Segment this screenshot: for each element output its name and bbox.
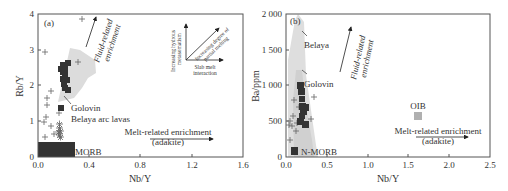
panel-b-fluid-arrow [340,27,351,72]
panel-a-ylabel: Rb/Y [14,75,25,97]
panel-a-belaya-label: Belaya arc lavas [71,114,130,124]
panel-b-xtick: 2.0 [443,160,455,170]
inset-x-line2: interaction [193,70,217,76]
panel-b-oib-label: OIB [410,101,426,111]
panel-b-nmorb-marker [291,147,298,155]
panel-a-ytick: 3 [30,45,35,55]
panel-a-ytick: 4 [30,9,35,19]
panel-a-morb-box [38,142,75,157]
panel-a-golovin-label: Golovin [71,103,101,113]
panel-b-golovin-label: Golovin [304,79,334,89]
panel-a-xtick: 0.4 [83,160,95,170]
panel-a-ytick: 2 [30,80,35,90]
panel-b-xlabel: Nb/Y [377,173,399,184]
panel-b-label: (b) [290,16,301,26]
panel-b-belaya-label: Belaya [304,40,329,50]
panel-b-xtick: 2.5 [484,160,496,170]
panel-b-ytick: 500 [269,116,283,126]
panel-b-xtick: 1.5 [402,160,414,170]
panel-b-xtick: 0.5 [321,160,333,170]
panel-b-melt-label: Melt-related enrichment [394,126,482,136]
panel-b-adakite-label: (adakite) [422,136,454,146]
panel-a-adakite-label: (adakite) [152,137,184,147]
panel-b-ytick: 1 500 [262,45,283,55]
panel-b-nmorb-label: N-MORB [301,147,337,157]
panel-a-xlabel: Nb/Y [129,173,151,184]
panel-b-ylabel: Ba/ppm [250,70,261,102]
panel-a-ytick: 0 [30,152,35,162]
panel-a-fluid-arrow [86,17,96,47]
panel-a-xtick: 1.2 [186,160,197,170]
panel-b-xtick: 0.0 [280,160,292,170]
panel-a: 0.0 0.4 0.8 1.2 1.6 0 1 2 3 4 Nb/Y Rb/Y … [14,9,249,184]
figure: 0.0 0.4 0.8 1.2 1.6 0 1 2 3 4 Nb/Y Rb/Y … [0,0,508,191]
panel-a-xtick: 0.0 [32,160,44,170]
panel-a-morb-label: MORB [75,147,102,157]
panel-a-ytick: 1 [30,116,35,126]
panel-a-melt-label: Melt-related enrichment [124,127,212,137]
panel-a-fluid-label: Fluid-related enrichment [91,17,124,67]
inset-y-line2: metasomatism [176,33,182,65]
panel-b-oib-marker [414,112,422,120]
panel-b: 0.0 0.5 1.0 1.5 2.0 2.5 0 500 1 000 1 50… [250,9,496,184]
panel-a-xtick: 1.6 [237,160,249,170]
panel-b-fluid-label: Fluid-related enrichment [348,34,376,84]
panel-a-inset: Increasing hydrous metasomatism Increasi… [170,24,234,76]
panel-a-asterisks [55,121,64,141]
panel-b-ytick: 1 000 [262,80,283,90]
inset-y-label: Increasing hydrous metasomatism [170,30,182,72]
panel-a-label: (a) [44,18,54,28]
panel-b-ytick: 2 000 [262,9,283,19]
panel-b-xtick: 1.0 [362,160,374,170]
panel-b-ytick: 0 [278,152,283,162]
panel-a-xtick: 0.8 [134,160,146,170]
